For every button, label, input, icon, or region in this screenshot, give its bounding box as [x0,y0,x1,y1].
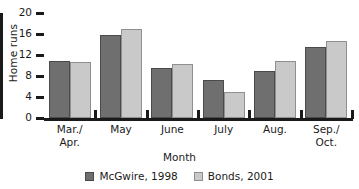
x-axis-category-label-line: Oct. [301,136,352,149]
x-axis-title: Month [0,151,359,163]
y-axis-title: Home runs [7,13,19,93]
bar [172,64,193,118]
legend-item: Bonds, 2001 [194,170,274,182]
bar [224,92,245,118]
home-runs-bar-chart: Home runs 048121620 Mar./Apr.MayJuneJuly… [0,0,359,189]
y-axis-tick-label-text: 20 [19,6,32,18]
y-axis-tick-label-text: 12 [19,48,32,60]
bar [100,35,121,118]
y-axis-tick [36,54,44,57]
bar [49,61,70,118]
y-axis-tick [36,75,44,78]
x-axis-category-label: Mar./Apr. [44,123,95,148]
bar [275,61,296,118]
x-axis-category-label-line: June [147,123,198,136]
bar [254,71,275,118]
y-axis-tick [36,33,44,36]
legend-label: Bonds, 2001 [208,170,274,182]
y-axis-tick-label-text: 16 [19,27,32,39]
x-axis-category-label: Aug. [249,123,300,136]
y-axis-tick [36,96,44,99]
x-axis-category-label: May [95,123,146,136]
x-axis-category-label-line: Sep./ [301,123,352,136]
x-axis-category-label: July [198,123,249,136]
bar [151,68,172,118]
bar [70,62,91,118]
legend-item: McGwire, 1998 [85,170,177,182]
y-axis-tick-label-text: 0 [25,111,32,123]
y-axis-tick-label-text: 4 [25,90,32,102]
bar [121,29,142,118]
y-axis-tick [36,12,44,15]
x-axis-category-label: June [147,123,198,136]
bar [326,41,347,118]
legend-swatch-icon [85,172,94,181]
y-axis-line [0,13,3,119]
legend-swatch-icon [194,172,203,181]
x-axis-category-label-line: Aug. [249,123,300,136]
x-axis-category-label-line: Apr. [44,136,95,149]
y-axis-tick [36,117,44,120]
legend-label: McGwire, 1998 [99,170,177,182]
chart-legend: McGwire, 1998Bonds, 2001 [0,170,359,182]
x-axis-category-label-line: May [95,123,146,136]
x-axis-category-label: Sep./Oct. [301,123,352,148]
bar [203,80,224,118]
y-axis-tick-label-text: 8 [25,69,32,81]
plot-area [44,13,352,118]
x-axis-category-label-line: Mar./ [44,123,95,136]
x-axis-category-label-line: July [198,123,249,136]
bar [305,47,326,118]
